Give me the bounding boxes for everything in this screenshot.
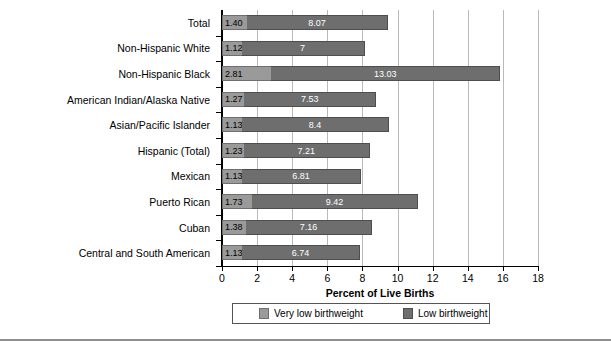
x-axis-tick-label: 10 <box>392 272 404 284</box>
category-label: Central and South American <box>79 240 210 266</box>
bar-value-label: 2.81 <box>225 69 243 78</box>
bar-segment-very-low-birthweight[interactable]: 1.73 <box>222 194 252 209</box>
bar-segment-low-birthweight[interactable]: 7.21 <box>244 143 371 158</box>
bar-value-label: 1.23 <box>225 146 243 155</box>
x-axis-tick <box>398 267 399 271</box>
bar-value-label: 8.07 <box>247 18 388 27</box>
bar-segment-very-low-birthweight[interactable]: 1.13 <box>222 245 242 260</box>
category-label: Mexican <box>171 164 210 190</box>
bar-segment-low-birthweight[interactable]: 8.07 <box>247 15 389 30</box>
legend-label-low-birthweight: Low birthweight <box>418 308 487 319</box>
bar-row: 1.237.21 <box>222 138 538 164</box>
bar-row: 2.8113.03 <box>222 61 538 87</box>
stacked-bar[interactable]: 1.136.81 <box>222 169 361 184</box>
bar-value-label: 7.16 <box>246 223 371 232</box>
legend-label-very-low-birthweight: Very low birthweight <box>274 308 363 319</box>
legend-swatch-icon-low-birthweight <box>403 308 413 319</box>
bar-segment-very-low-birthweight[interactable]: 1.40 <box>222 15 247 30</box>
category-label: American Indian/Alaska Native <box>67 87 210 113</box>
footer-divider <box>0 339 611 341</box>
bar-rows: 1.408.071.1272.8113.031.277.531.138.41.2… <box>222 10 538 266</box>
plot-area: 1.408.071.1272.8113.031.277.531.138.41.2… <box>222 10 538 266</box>
bar-segment-very-low-birthweight[interactable]: 1.23 <box>222 143 244 158</box>
stacked-bar[interactable]: 1.408.07 <box>222 15 388 30</box>
legend-swatch-icon-very-low-birthweight <box>259 308 269 319</box>
bar-row: 1.387.16 <box>222 215 538 241</box>
bar-value-label: 13.03 <box>271 69 499 78</box>
bar-row: 1.739.42 <box>222 189 538 215</box>
bar-segment-very-low-birthweight[interactable]: 1.13 <box>222 117 242 132</box>
bar-row: 1.127 <box>222 36 538 62</box>
bar-value-label: 8.4 <box>242 120 388 129</box>
bar-segment-very-low-birthweight[interactable]: 1.13 <box>222 169 242 184</box>
x-axis-tick <box>292 267 293 271</box>
x-axis-tick-label: 6 <box>324 272 330 284</box>
category-label: Non-Hispanic Black <box>118 61 210 87</box>
category-label: Cuban <box>179 215 210 241</box>
x-axis-tick <box>433 267 434 271</box>
bar-value-label: 9.42 <box>252 197 416 206</box>
x-axis-tick <box>362 267 363 271</box>
stacked-bar[interactable]: 1.277.53 <box>222 92 376 107</box>
gridline-18 <box>538 10 539 266</box>
bar-segment-very-low-birthweight[interactable]: 2.81 <box>222 66 271 81</box>
legend-item-low-birthweight: Low birthweight <box>403 308 487 319</box>
bar-segment-low-birthweight[interactable]: 7 <box>242 41 365 56</box>
x-axis-tick-label: 14 <box>462 272 474 284</box>
bar-value-label: 1.38 <box>225 223 243 232</box>
bar-value-label: 7.21 <box>244 146 370 155</box>
stacked-bar[interactable]: 1.127 <box>222 41 365 56</box>
bar-value-label: 1.27 <box>225 95 243 104</box>
x-axis-tick-label: 16 <box>497 272 509 284</box>
x-axis-line <box>221 266 539 267</box>
x-axis-tick <box>468 267 469 271</box>
bar-value-label: 1.12 <box>225 44 243 53</box>
bar-segment-very-low-birthweight[interactable]: 1.12 <box>222 41 242 56</box>
bar-segment-low-birthweight[interactable]: 7.16 <box>246 220 372 235</box>
bar-segment-very-low-birthweight[interactable]: 1.27 <box>222 92 244 107</box>
bar-value-label: 6.81 <box>242 172 361 181</box>
bar-value-label: 6.74 <box>242 248 359 257</box>
bar-segment-low-birthweight[interactable]: 9.42 <box>252 194 417 209</box>
category-label: Total <box>188 10 210 36</box>
x-axis-tick-label: 12 <box>427 272 439 284</box>
bar-row: 1.277.53 <box>222 87 538 113</box>
category-label: Non-Hispanic White <box>117 36 210 62</box>
stacked-bar[interactable]: 1.136.74 <box>222 245 360 260</box>
chart-figure: TotalNon-Hispanic WhiteNon-Hispanic Blac… <box>0 0 611 347</box>
x-axis-tick-label: 18 <box>532 272 544 284</box>
x-axis-tick <box>327 267 328 271</box>
x-axis-tick-label: 4 <box>289 272 295 284</box>
x-axis-tick-label: 0 <box>219 272 225 284</box>
bar-value-label: 7.53 <box>244 95 375 104</box>
bar-segment-low-birthweight[interactable]: 7.53 <box>244 92 376 107</box>
category-axis-labels: TotalNon-Hispanic WhiteNon-Hispanic Blac… <box>0 10 216 266</box>
x-axis-tick <box>503 267 504 271</box>
stacked-bar[interactable]: 1.387.16 <box>222 220 372 235</box>
bar-segment-low-birthweight[interactable]: 8.4 <box>242 117 389 132</box>
bar-value-label: 1.13 <box>225 120 243 129</box>
stacked-bar[interactable]: 1.237.21 <box>222 143 370 158</box>
stacked-bar[interactable]: 1.138.4 <box>222 117 389 132</box>
x-axis-title: Percent of Live Births <box>222 287 538 299</box>
bar-segment-very-low-birthweight[interactable]: 1.38 <box>222 220 246 235</box>
stacked-bar[interactable]: 2.8113.03 <box>222 66 500 81</box>
x-axis-tick <box>222 267 223 271</box>
bar-segment-low-birthweight[interactable]: 6.74 <box>242 245 360 260</box>
bar-row: 1.136.81 <box>222 164 538 190</box>
legend-item-very-low-birthweight: Very low birthweight <box>259 308 363 319</box>
bar-row: 1.136.74 <box>222 240 538 266</box>
x-axis-tick-label: 2 <box>254 272 260 284</box>
bar-row: 1.138.4 <box>222 112 538 138</box>
bar-segment-low-birthweight[interactable]: 6.81 <box>242 169 362 184</box>
bar-value-label: 1.40 <box>225 18 243 27</box>
bar-value-label: 1.73 <box>225 197 243 206</box>
x-axis-tick <box>538 267 539 271</box>
stacked-bar[interactable]: 1.739.42 <box>222 194 418 209</box>
bar-segment-low-birthweight[interactable]: 13.03 <box>271 66 500 81</box>
bar-value-label: 1.13 <box>225 248 243 257</box>
bar-value-label: 1.13 <box>225 172 243 181</box>
category-label: Hispanic (Total) <box>138 138 210 164</box>
bar-row: 1.408.07 <box>222 10 538 36</box>
x-axis-tick-label: 8 <box>360 272 366 284</box>
